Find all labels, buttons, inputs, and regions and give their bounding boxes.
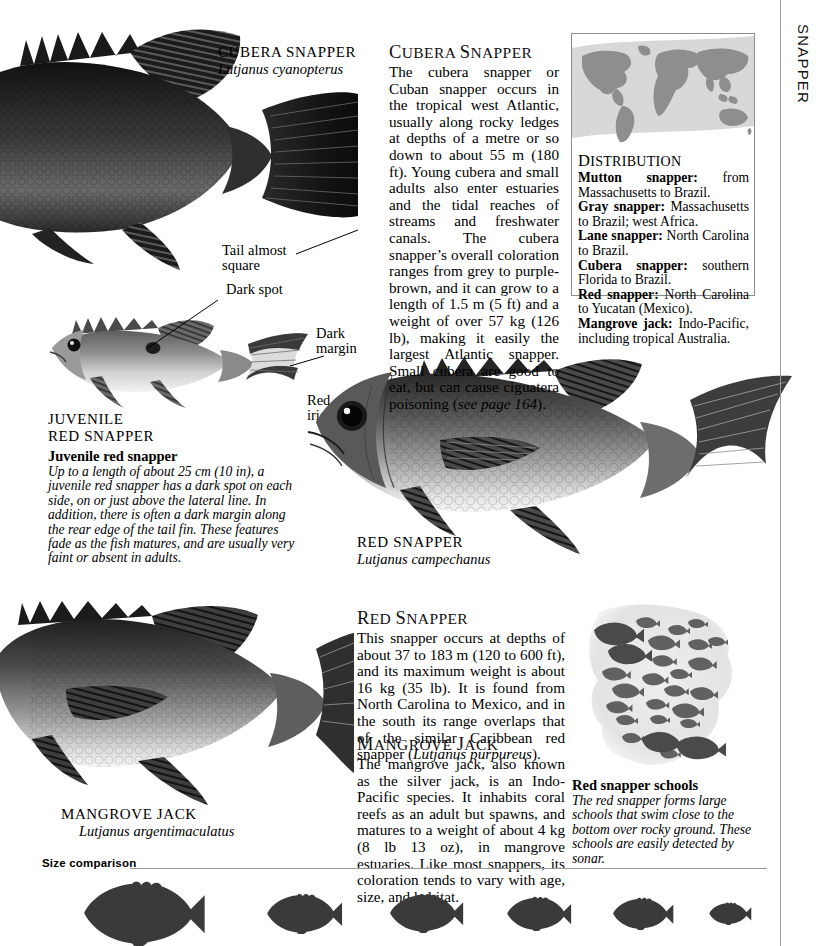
- red-snapper-name-label: RED SNAPPER Lutjanus campechanus: [357, 534, 490, 568]
- juvenile-caption-text: Up to a length of about 25 cm (10 in), a…: [48, 465, 296, 566]
- juvenile-caption-title: Juvenile red snapper: [48, 448, 296, 465]
- mangrove-jack-common-name: MANGROVE JACK: [61, 806, 234, 823]
- distribution-entry: Red snapper: North Carolina to Yucatan (…: [578, 288, 749, 317]
- size-comparison-silhouettes: [40, 880, 770, 946]
- callout-dark-spot-label: Dark spot: [226, 281, 283, 297]
- cubera-scientific-name: Lutjanus cyanopterus: [218, 61, 356, 78]
- distribution-entry: Mutton snapper: from Massachusetts to Br…: [578, 171, 749, 200]
- cubera-heading-initial: C: [389, 42, 402, 62]
- silhouette-1: [84, 882, 205, 946]
- red-snapper-article-heading: RED SNAPPER: [357, 608, 565, 629]
- callout-dark-spot-leader-line: [148, 298, 220, 350]
- mangrove-jack-name-label: MANGROVE JACK Lutjanus argentimaculatus: [61, 806, 234, 840]
- red-snapper-schools-caption: Red snapper schools The red snapper form…: [572, 777, 757, 866]
- silhouette-5: [613, 898, 673, 931]
- silhouette-6: [709, 903, 751, 926]
- red-snapper-common-name: RED SNAPPER: [357, 534, 490, 551]
- red-snapper-schools-illustration: [572, 598, 762, 774]
- distribution-entry: Cubera snapper: southern Florida to Braz…: [578, 259, 749, 288]
- schools-caption-title: Red snapper schools: [572, 777, 757, 794]
- distribution-heading-rest: ISTRIBUTION: [590, 154, 681, 169]
- distribution-box: DISTRIBUTION Mutton snapper: from Massac…: [571, 33, 755, 296]
- red-heading-rest: ED: [370, 610, 396, 627]
- juvenile-red-snapper-name-label: JUVENILE RED SNAPPER: [48, 411, 154, 445]
- book-page: CUBERA SNAPPER Lutjanus cyanopterus Tail…: [0, 0, 825, 946]
- mangrove-jack-scientific-name: Lutjanus argentimaculatus: [79, 823, 234, 840]
- distribution-entry: Mangrove jack: Indo-Pacific, including t…: [578, 317, 749, 346]
- distribution-entry-species: Cubera snapper:: [578, 258, 688, 273]
- cubera-common-name-label: CUBERA SNAPPER Lutjanus cyanopterus: [218, 44, 356, 78]
- silhouette-3: [390, 894, 463, 934]
- cubera-article-heading: CUBERA SNAPPER: [389, 42, 559, 63]
- mangrove-jack-article-heading: MANGROVE JACK: [357, 734, 565, 755]
- cubera-body-italic: see page 164: [458, 395, 537, 412]
- distribution-entry-species: Lane snapper:: [578, 228, 663, 243]
- distribution-heading: DISTRIBUTION: [578, 151, 749, 171]
- cubera-heading-initial2: S: [460, 42, 471, 62]
- cubera-article: CUBERA SNAPPER The cubera snapper or Cub…: [389, 42, 559, 412]
- cubera-heading-rest2: NAPPER: [470, 44, 532, 61]
- callout-tail-line2: square: [222, 258, 287, 273]
- juvenile-name-line2: RED SNAPPER: [48, 428, 154, 445]
- red-heading-initial: R: [357, 608, 370, 628]
- cubera-article-body: The cubera snapper or Cuban snapper occu…: [389, 64, 559, 412]
- cubera-heading-rest: UBERA: [402, 44, 460, 61]
- mangrove-heading-rest: ANGROVE: [374, 736, 457, 753]
- section-tab-label: SNAPPER: [795, 24, 812, 104]
- distribution-entry: Gray snapper: Massachusetts to Brazil; w…: [578, 200, 749, 229]
- mangrove-heading-rest2: ACK: [464, 736, 498, 753]
- distribution-world-map: [572, 34, 754, 148]
- red-heading-rest2: NAPPER: [406, 610, 468, 627]
- mangrove-jack-illustration: [0, 585, 354, 825]
- silhouette-4: [507, 897, 571, 932]
- juvenile-red-snapper-caption: Juvenile red snapper Up to a length of a…: [48, 448, 296, 566]
- size-comparison-rule: [130, 868, 767, 869]
- cubera-body-tail: ).: [537, 395, 546, 412]
- red-snapper-scientific-name: Lutjanus campechanus: [357, 551, 490, 568]
- mangrove-heading-initial: M: [357, 734, 374, 754]
- distribution-heading-initial: D: [578, 151, 590, 170]
- callout-tail-leader-line: [296, 228, 360, 256]
- cubera-body-main: The cubera snapper or Cuban snapper occu…: [389, 63, 559, 412]
- distribution-entry-species: Mangrove jack:: [578, 316, 673, 331]
- juvenile-name-line1: JUVENILE: [48, 411, 154, 428]
- distribution-entry-species: Gray snapper:: [578, 199, 665, 214]
- callout-tail-almost-square: Tail almost square: [222, 243, 287, 273]
- schools-caption-text: The red snapper forms large schools that…: [572, 794, 757, 866]
- distribution-text-block: DISTRIBUTION Mutton snapper: from Massac…: [572, 148, 754, 346]
- distribution-entry-species: Red snapper:: [578, 287, 659, 302]
- red-heading-initial2: S: [396, 608, 407, 628]
- section-tab: SNAPPER: [780, 0, 825, 946]
- distribution-entry: Lane snapper: North Carolina to Brazil.: [578, 229, 749, 258]
- silhouette-2: [267, 894, 342, 935]
- callout-tail-line1: Tail almost: [222, 243, 287, 258]
- callout-dark-spot: Dark spot: [226, 282, 283, 297]
- size-comparison-label: Size comparison: [42, 857, 136, 869]
- distribution-entry-species: Mutton snapper:: [578, 170, 698, 185]
- cubera-common-name: CUBERA SNAPPER: [218, 44, 356, 61]
